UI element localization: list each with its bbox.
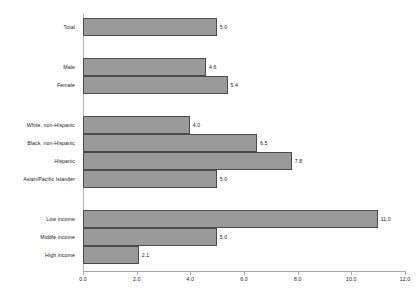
category-label: Female [57,76,75,94]
tick-mark [137,271,138,275]
tick-mark [405,271,406,275]
bar-row: 5.0 [83,170,405,188]
bar [83,116,190,134]
category-label: Asian/Pacific Islander [23,170,75,188]
tick-mark [190,271,191,275]
bar-value-label: 4.6 [206,64,216,70]
tick-label: 8.0 [294,276,302,282]
bar [83,76,228,94]
tick-mark [83,271,84,275]
tick-mark [298,271,299,275]
bar-row: 7.8 [83,152,405,170]
tick-label: 2.0 [133,276,141,282]
plot-area: 5.04.65.44.06.57.85.011.05.02.1 [83,14,405,271]
bar-row: 5.4 [83,76,405,94]
category-label: Low income [46,210,75,228]
category-label: Black, non-Hispanic [27,134,75,152]
bar [83,18,217,36]
bar-row: 4.6 [83,58,405,76]
tick-label: 10.0 [346,276,357,282]
bar [83,210,378,228]
bar-value-label: 6.5 [257,140,267,146]
tick-label: 12.0 [400,276,411,282]
bar-row: 5.0 [83,18,405,36]
bar-chart: TotalMaleFemaleWhite, non-HispanicBlack,… [0,0,418,295]
category-label: Male [63,58,75,76]
bar-value-label: 11.0 [378,216,391,222]
bar-row: 6.5 [83,134,405,152]
bar-row: 11.0 [83,210,405,228]
bar-value-label: 5.4 [228,82,238,88]
bar-value-label: 2.1 [139,252,149,258]
bar [83,58,206,76]
bar [83,134,257,152]
tick-mark [244,271,245,275]
bar-value-label: 5.0 [217,234,227,240]
category-axis-labels: TotalMaleFemaleWhite, non-HispanicBlack,… [0,14,79,271]
bar-row: 2.1 [83,246,405,264]
category-label: White, non-Hispanic [27,116,75,134]
bar-value-label: 4.0 [190,122,200,128]
bar [83,228,217,246]
tick-mark [351,271,352,275]
bar-row: 4.0 [83,116,405,134]
category-label: Middle income [40,228,75,246]
tick-label: 0.0 [79,276,87,282]
bar-value-label: 7.8 [292,158,302,164]
category-label: High income [45,246,75,264]
bar-value-label: 5.0 [217,176,227,182]
tick-label: 4.0 [187,276,195,282]
bar [83,152,292,170]
category-label: Total [64,18,75,36]
bar [83,246,139,264]
bar-value-label: 5.0 [217,24,227,30]
bar [83,170,217,188]
category-label: Hispanic [54,152,75,170]
tick-label: 6.0 [240,276,248,282]
bar-row: 5.0 [83,228,405,246]
